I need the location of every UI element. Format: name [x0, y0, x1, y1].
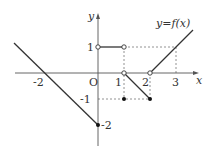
function-label: y=f(x)	[155, 17, 190, 30]
function-graph: y x O y=f(x) -2 1 2 3 1 -1 -2	[0, 0, 208, 147]
x-tick-neg2: -2	[33, 76, 44, 89]
y-axis-arrow-icon	[96, 13, 100, 19]
y-axis-label: y	[87, 10, 95, 23]
y-tick-neg2: -2	[101, 119, 112, 132]
y-tick-1: 1	[87, 41, 94, 54]
x-tick-2: 2	[142, 76, 149, 89]
y-tick-neg1: -1	[80, 93, 91, 106]
x-tick-1: 1	[115, 76, 122, 89]
x-tick-3: 3	[172, 76, 179, 89]
origin-label: O	[89, 76, 98, 89]
x-axis-label: x	[196, 74, 203, 87]
